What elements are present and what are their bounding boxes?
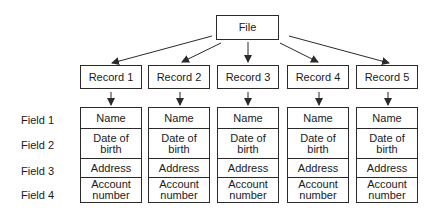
field-cell-address: Address [218,158,278,177]
field-cell-name: Name [218,108,278,128]
record-label: Record 1 [89,72,134,83]
record-3-fields-table: Name Date of birth Address Account numbe… [217,107,279,203]
record-5-node: Record 5 [356,65,418,89]
field-cell-name: Name [149,108,209,128]
field-label-1: Field 1 [21,115,54,126]
record-3-node: Record 3 [217,65,279,89]
file-label: File [239,22,257,33]
field-cell-date-of-birth: Date of birth [288,128,348,158]
field-cell-name: Name [81,108,141,128]
record-label: Record 3 [226,72,271,83]
field-cell-address: Address [81,158,141,177]
arrow-file-record-1 [112,36,212,63]
record-4-node: Record 4 [287,65,349,89]
field-cell-date-of-birth: Date of birth [357,128,417,158]
field-cell-account-number: Account number [288,177,348,202]
record-4-fields-table: Name Date of birth Address Account numbe… [287,107,349,203]
record-label: Record 4 [296,72,341,83]
field-label-2: Field 2 [21,140,54,151]
arrow-file-record-4 [280,43,318,62]
field-cell-account-number: Account number [357,177,417,202]
field-cell-date-of-birth: Date of birth [81,128,141,158]
file-node: File [216,15,279,40]
record-1-node: Record 1 [80,65,142,89]
field-cell-address: Address [357,158,417,177]
field-cell-address: Address [288,158,348,177]
field-cell-date-of-birth: Date of birth [218,128,278,158]
field-cell-name: Name [288,108,348,128]
record-2-node: Record 2 [148,65,210,89]
field-label-3: Field 3 [21,166,54,177]
field-cell-account-number: Account number [149,177,209,202]
arrow-file-record-2 [182,43,221,62]
field-cell-address: Address [149,158,209,177]
arrow-file-record-5 [289,36,389,63]
record-label: Record 2 [157,72,202,83]
record-2-fields-table: Name Date of birth Address Account numbe… [148,107,210,203]
record-1-fields-table: Name Date of birth Address Account numbe… [80,107,142,203]
field-cell-name: Name [357,108,417,128]
record-label: Record 5 [365,72,410,83]
record-5-fields-table: Name Date of birth Address Account numbe… [356,107,418,203]
field-label-4: Field 4 [21,190,54,201]
field-cell-account-number: Account number [218,177,278,202]
field-cell-date-of-birth: Date of birth [149,128,209,158]
field-cell-account-number: Account number [81,177,141,202]
